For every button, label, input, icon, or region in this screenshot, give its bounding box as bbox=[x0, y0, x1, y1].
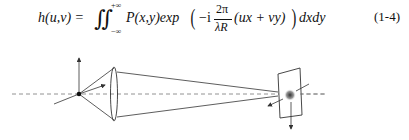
object-axes bbox=[54, 58, 105, 104]
light-cone bbox=[79, 68, 278, 120]
point-source bbox=[77, 92, 82, 97]
optics-diagram bbox=[0, 0, 409, 140]
image-spot bbox=[284, 89, 296, 101]
